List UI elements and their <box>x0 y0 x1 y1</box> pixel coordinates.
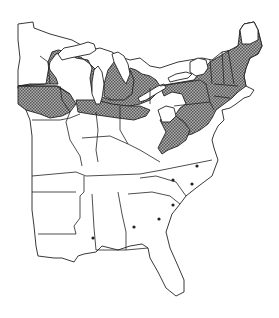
maine-north-unshaded <box>240 22 258 44</box>
lake-michigan <box>92 66 104 104</box>
record-dot <box>132 225 135 228</box>
record-dot <box>195 164 198 167</box>
record-dot <box>171 178 174 181</box>
record-dot <box>171 203 174 206</box>
record-dot <box>190 182 193 185</box>
eastern-us-map <box>0 0 279 318</box>
record-dot <box>157 217 160 220</box>
record-dot <box>91 236 94 239</box>
range-map <box>0 0 279 318</box>
